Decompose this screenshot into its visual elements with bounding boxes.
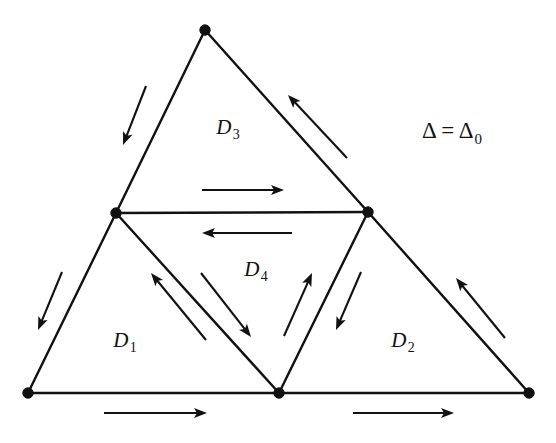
triangle-edges (28, 30, 529, 393)
arrow-shaft-arrow-d1-inner-diagonal (157, 280, 206, 340)
vertex-bottom-left (23, 388, 33, 398)
edge-apex-to-mid-left (116, 30, 205, 213)
region-label-d1: D1 (113, 330, 137, 355)
delta-equation-subscript: 0 (474, 131, 483, 147)
region-label-d4: D4 (244, 259, 268, 284)
delta-equation-label: Δ = Δ0 (422, 119, 482, 147)
region-label-d2-base: D (391, 328, 406, 352)
edge-mid-left-to-mid-bottom (116, 213, 279, 393)
vertex-bottom-right (524, 388, 534, 398)
arrow-shaft-arrow-upper-right-edge (294, 102, 347, 158)
arrow-shaft-arrow-lower-right-edge (462, 285, 505, 338)
region-label-d1-base: D (113, 328, 128, 352)
region-label-d3-base: D (216, 115, 231, 139)
triangle-subdivision-figure: D1 D2 D3 D4 Δ = Δ0 (0, 0, 556, 443)
edge-mid-right-to-bottom-right (368, 212, 529, 393)
region-label-d4-subscript: 4 (259, 270, 268, 285)
edge-mid-left-to-bottom-left (28, 213, 116, 393)
region-label-d3: D3 (216, 117, 240, 142)
arrow-shaft-arrow-d4-left-diagonal (201, 273, 245, 330)
arrow-shaft-arrow-upper-left-edge (126, 86, 146, 136)
arrow-shaft-arrow-d2-inner-diagonal (340, 272, 361, 321)
region-label-d4-base: D (244, 257, 259, 281)
edge-mid-left-to-mid-right (116, 212, 368, 213)
arrow-shaft-arrow-lower-left-edge (42, 272, 62, 321)
region-label-d1-subscript: 1 (128, 341, 137, 356)
region-label-d2: D2 (391, 330, 415, 355)
vertex-apex (200, 25, 210, 35)
region-label-d3-subscript: 3 (231, 128, 240, 143)
figure-canvas (0, 0, 556, 443)
vertex-mid-bottom (274, 388, 284, 398)
vertex-mid-right (363, 207, 373, 217)
region-label-d2-subscript: 2 (406, 341, 415, 356)
arrow-shaft-arrow-d4-right-diagonal (284, 282, 308, 336)
delta-equation-lhs: Δ = Δ (422, 118, 474, 143)
edge-mid-right-to-mid-bottom (279, 212, 368, 393)
vertex-mid-left (111, 208, 121, 218)
